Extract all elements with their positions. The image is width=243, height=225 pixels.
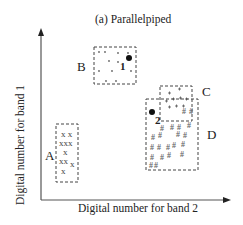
- svg-text:#: #: [154, 161, 158, 170]
- class-d-box: ## #### #### ##### #### ##: [146, 99, 198, 170]
- parallelepiped-diagram: ## #### #### ##### #### ## x x xxx x xx …: [0, 0, 243, 225]
- axes: [38, 28, 231, 203]
- x-axis-label: Digital number for band 2: [78, 202, 198, 214]
- unknown-point-1-label: 1: [120, 60, 126, 72]
- class-a-box: x x xxx x xx x x: [56, 124, 78, 182]
- unknown-point-1: [126, 55, 132, 61]
- svg-text:#: #: [167, 151, 171, 160]
- svg-text:#: #: [176, 130, 180, 139]
- class-label-d: D: [207, 127, 216, 143]
- svg-text:#: #: [170, 123, 174, 132]
- y-axis-label: Digital number for band 1: [14, 85, 26, 205]
- svg-text:#: #: [160, 153, 164, 162]
- class-label-c: C: [202, 84, 211, 100]
- svg-text:#: #: [150, 143, 154, 152]
- svg-text:xx: xx: [59, 156, 69, 166]
- class-label-b: B: [77, 59, 86, 75]
- svg-text:#: #: [157, 143, 161, 152]
- unknown-point-2-label: 2: [155, 114, 161, 126]
- y-axis-arrow-icon: [38, 28, 44, 36]
- svg-text:#: #: [183, 131, 187, 140]
- diagram-canvas: ## #### #### ##### #### ## x x xxx x xx …: [0, 0, 243, 225]
- svg-text:#: #: [172, 141, 176, 150]
- class-c-box: [160, 86, 192, 121]
- svg-text:#: #: [182, 107, 186, 116]
- svg-text:#: #: [151, 133, 155, 142]
- svg-text:x: x: [61, 166, 66, 176]
- class-b-box: [94, 47, 136, 84]
- diagram-title: (a) Parallelpiped: [95, 13, 171, 25]
- svg-text:#: #: [180, 150, 184, 159]
- svg-text:#: #: [149, 161, 153, 170]
- svg-text:x: x: [70, 159, 75, 169]
- svg-text:#: #: [158, 131, 162, 140]
- svg-text:#: #: [181, 140, 185, 149]
- svg-text:#: #: [189, 107, 193, 116]
- svg-text:#: #: [187, 121, 191, 130]
- x-axis-arrow-icon: [223, 197, 231, 203]
- class-label-a: A: [45, 148, 54, 164]
